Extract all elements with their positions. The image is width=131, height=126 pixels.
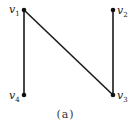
graph-diagram: v1 v2 v3 v4 (a) xyxy=(0,0,131,126)
node-v3 xyxy=(111,93,116,98)
node-label-v4: v4 xyxy=(9,90,20,104)
edge-v1-v3 xyxy=(24,10,113,95)
node-v1 xyxy=(22,8,27,13)
node-label-v2: v2 xyxy=(117,5,128,19)
node-label-v3: v3 xyxy=(117,90,128,104)
figure-caption: (a) xyxy=(0,108,131,121)
node-label-v1: v1 xyxy=(9,4,20,18)
node-v4 xyxy=(22,93,27,98)
node-v2 xyxy=(111,8,116,13)
